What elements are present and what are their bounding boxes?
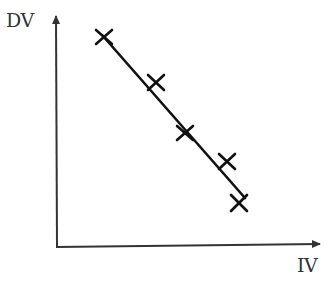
trend-line xyxy=(103,36,245,198)
data-point-cross-icon xyxy=(231,195,247,211)
scatter-diagram xyxy=(0,0,330,283)
x-axis-label: IV xyxy=(297,254,317,276)
y-axis-label: DV xyxy=(6,9,34,31)
data-points xyxy=(96,30,247,211)
data-point-cross-icon xyxy=(148,75,164,90)
y-axis xyxy=(56,16,57,247)
data-point-cross-icon xyxy=(96,30,112,44)
data-point-cross-icon xyxy=(219,154,235,169)
x-axis xyxy=(56,244,320,247)
